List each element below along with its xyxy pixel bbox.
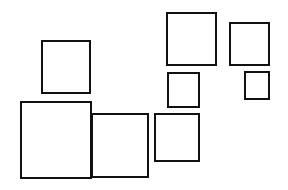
square-e	[229, 22, 270, 66]
square-f	[167, 72, 200, 108]
square-d	[166, 12, 217, 66]
square-b	[20, 101, 92, 179]
square-h	[154, 113, 200, 162]
square-a	[41, 40, 91, 94]
diagram-canvas	[0, 0, 288, 190]
square-c	[91, 113, 149, 178]
square-g	[244, 71, 270, 100]
